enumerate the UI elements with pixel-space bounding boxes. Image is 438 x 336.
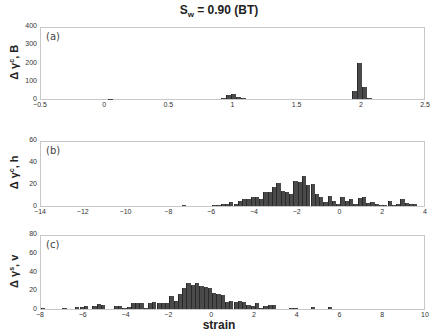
x-tick-label: 0 xyxy=(199,311,223,318)
y-tick-label: 400 xyxy=(17,22,37,29)
x-tick-label: 0.5 xyxy=(156,101,180,108)
histogram-bar xyxy=(101,305,105,309)
x-tick-label: −8 xyxy=(156,208,180,215)
histogram-bar xyxy=(41,308,45,309)
x-tick-label: −4 xyxy=(242,208,266,215)
histogram-bar xyxy=(328,307,332,309)
x-tick-label: −4 xyxy=(114,311,138,318)
histogram-panel-b: (b) xyxy=(40,141,425,207)
x-tick-label: −2 xyxy=(285,208,309,215)
figure-title: Sw = 0.90 (BT) xyxy=(0,3,438,19)
x-tick-label: 4 xyxy=(285,311,309,318)
histogram-bar xyxy=(413,204,417,206)
x-tick-label: 1 xyxy=(221,101,245,108)
x-tick-label: 2 xyxy=(242,311,266,318)
panel-label: (b) xyxy=(46,145,60,156)
x-tick-label: −12 xyxy=(71,208,95,215)
x-tick-label: 6 xyxy=(327,311,351,318)
x-tick-label: 1.5 xyxy=(285,101,309,108)
x-tick-label: 0 xyxy=(327,208,351,215)
x-tick-label: −14 xyxy=(28,208,52,215)
x-tick-label: 4 xyxy=(413,208,437,215)
y-axis-label: Δ γs, v xyxy=(8,241,21,301)
x-axis-label: strain xyxy=(0,318,438,332)
histogram-bar xyxy=(293,308,297,309)
x-tick-label: 8 xyxy=(370,311,394,318)
histogram-panel-a: (a) xyxy=(40,27,425,100)
y-axis-label: Δ γc, B xyxy=(8,32,21,92)
panel-label: (c) xyxy=(46,239,59,250)
x-tick-label: −0.5 xyxy=(28,101,52,108)
histogram-bar xyxy=(272,305,276,309)
histogram-bar xyxy=(84,306,88,309)
histogram-bar xyxy=(241,98,246,99)
x-tick-label: 2 xyxy=(349,101,373,108)
x-tick-label: −2 xyxy=(156,311,180,318)
histogram-bar xyxy=(182,205,186,206)
x-tick-label: −6 xyxy=(199,208,223,215)
y-tick-label: 80 xyxy=(17,230,37,237)
x-tick-label: 0 xyxy=(92,101,116,108)
x-tick-label: −8 xyxy=(28,311,52,318)
histogram-bar xyxy=(367,98,372,99)
x-tick-label: 10 xyxy=(413,311,437,318)
x-tick-label: 2 xyxy=(370,208,394,215)
x-tick-label: −6 xyxy=(71,311,95,318)
y-axis-label: Δ γc, h xyxy=(8,142,21,202)
x-tick-label: 2.5 xyxy=(413,101,437,108)
histogram-bar xyxy=(62,308,66,309)
panel-label: (a) xyxy=(46,31,60,42)
x-tick-label: −10 xyxy=(114,208,138,215)
histogram-bar xyxy=(311,307,315,309)
histogram-panel-c: (c) xyxy=(40,235,425,310)
